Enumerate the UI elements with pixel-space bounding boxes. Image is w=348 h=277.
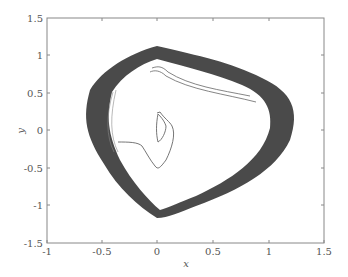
x-tick-label: 0 [154,246,160,257]
x-tick-label: 1.5 [316,246,332,257]
y-tick-label: 1 [37,50,43,61]
y-tick-label: 0 [37,125,43,136]
y-tick-label: 0.5 [27,88,43,99]
x-axis-label: x [183,258,189,269]
attractor-band [86,46,294,218]
x-tick-label: -0.5 [92,246,111,257]
y-tick-label: -1 [33,200,43,211]
y-tick-label: -1.5 [24,238,43,249]
x-tick-label: 1 [266,246,272,257]
y-tick-label: 1.5 [27,13,43,24]
y-axis-label: y [15,128,26,135]
x-tick-label: 0.5 [205,246,221,257]
transient-trajectory [118,112,174,168]
x-tick-label: -1 [42,246,52,257]
y-tick-label: -0.5 [24,163,43,174]
phase-portrait-chart: -1 -0.5 0 0.5 1 1.5 1.5 1 0.5 0 -0.5 -1 … [0,0,348,277]
